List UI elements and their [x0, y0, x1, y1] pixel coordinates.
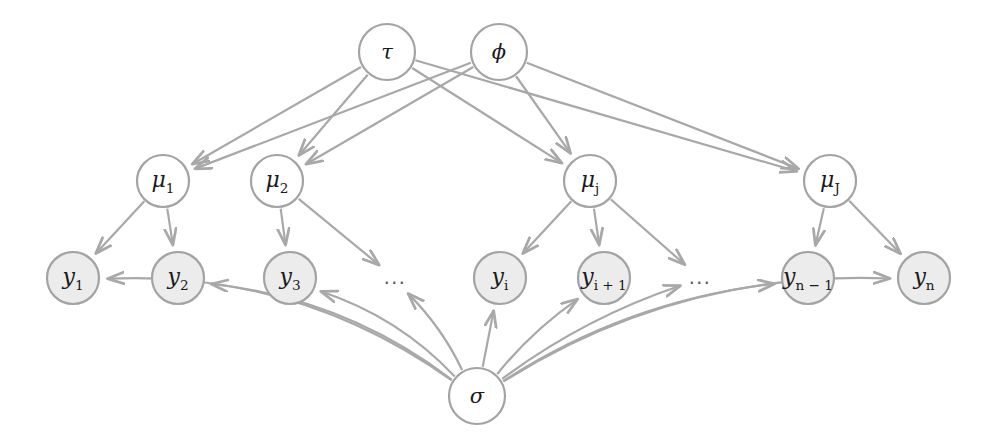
node-muJ[interactable]: μJ — [804, 155, 856, 207]
edge-muj-to-yi — [523, 201, 571, 253]
node-tau[interactable]: τ — [359, 24, 415, 80]
node-label-sigma: σ — [470, 384, 485, 408]
node-mu1[interactable]: μ1 — [137, 155, 189, 207]
edge-muJ-to-yn1 — [815, 208, 823, 245]
edge-sigma-to-y2 — [212, 284, 452, 380]
node-muj[interactable]: μj — [564, 155, 616, 207]
edge-sigma-to-y3 — [321, 292, 455, 377]
edge-phi-to-muj — [516, 76, 570, 153]
node-y3[interactable]: y3 — [264, 252, 316, 304]
node-yn1[interactable]: yn − 1 — [782, 252, 834, 304]
node-phi[interactable]: ϕ — [471, 24, 527, 80]
edge-phi-to-muJ — [527, 63, 798, 169]
edge-muj-to-yi1 — [594, 209, 599, 245]
edge-tau-to-muj — [412, 68, 561, 163]
edge-phi-to-mu1 — [195, 63, 471, 169]
node-y1[interactable]: y1 — [47, 252, 99, 304]
edge-sigma-to-yi — [483, 311, 494, 367]
edge-mu1-to-y2 — [167, 209, 173, 245]
edge-sigma-to-yn1 — [503, 284, 774, 381]
ellipsis-ell2: ... — [689, 266, 712, 288]
node-sigma[interactable]: σ — [449, 368, 505, 424]
node-yi1[interactable]: yi + 1 — [578, 252, 630, 304]
edge-muJ-to-yn — [849, 201, 900, 254]
node-mu2[interactable]: μ2 — [251, 155, 303, 207]
node-y2[interactable]: y2 — [152, 252, 204, 304]
ellipsis-ell1: ... — [384, 266, 407, 288]
edge-mu2-to-y3 — [281, 209, 286, 245]
node-label-phi: ϕ — [492, 40, 506, 64]
edge-muj-to-ell2 — [611, 199, 685, 264]
edge-sigma-to-yn — [504, 278, 890, 381]
node-yi[interactable]: yi — [474, 252, 526, 304]
edge-mu2-to-ell1 — [299, 199, 379, 265]
graph-canvas: τϕμ1μ2μjμJy1y2y3yiyi + 1yn − 1ynσ...... — [0, 0, 987, 445]
edge-mu1-to-y1 — [96, 201, 144, 253]
edge-tau-to-muJ — [415, 60, 796, 171]
node-label-tau: τ — [381, 40, 393, 64]
bayesian-network-diagram: τϕμ1μ2μjμJy1y2y3yiyi + 1yn − 1ynσ...... — [0, 0, 987, 445]
edge-layer — [96, 60, 900, 381]
node-yn[interactable]: yn — [898, 252, 950, 304]
